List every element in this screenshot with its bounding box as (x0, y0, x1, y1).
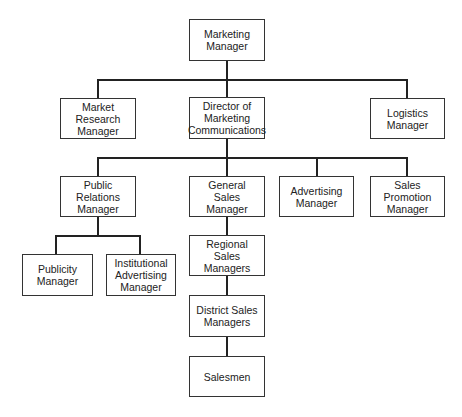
connector (97, 157, 408, 159)
connector (226, 275, 228, 295)
connector (316, 157, 318, 176)
node-advertising-manager: Advertising Manager (279, 176, 354, 217)
connector (406, 157, 408, 176)
node-director-marketing-communications: Director of Marketing Communications (189, 97, 265, 139)
connector (97, 79, 99, 98)
connector (97, 216, 99, 236)
connector (226, 336, 228, 356)
connector (97, 79, 408, 81)
node-sales-promotion-manager: Sales Promotion Manager (370, 176, 445, 217)
node-district-sales-managers: District Sales Managers (189, 295, 265, 337)
connector (55, 235, 57, 254)
connector (139, 235, 141, 254)
connector (406, 79, 408, 98)
node-logistics-manager: Logistics Manager (370, 98, 445, 139)
node-public-relations-manager: Public Relations Manager (60, 176, 136, 217)
node-publicity-manager: Publicity Manager (22, 254, 93, 296)
node-regional-sales-managers: Regional Sales Managers (189, 235, 265, 276)
node-salesmen: Salesmen (189, 356, 265, 397)
connector (55, 235, 141, 237)
node-general-sales-manager: General Sales Manager (189, 176, 265, 217)
connector (226, 216, 228, 235)
node-institutional-advertising-manager: Institutional Advertising Manager (106, 254, 176, 296)
node-market-research-manager: Market Research Manager (60, 98, 136, 139)
node-marketing-manager: Marketing Manager (189, 19, 265, 61)
connector (97, 157, 99, 176)
